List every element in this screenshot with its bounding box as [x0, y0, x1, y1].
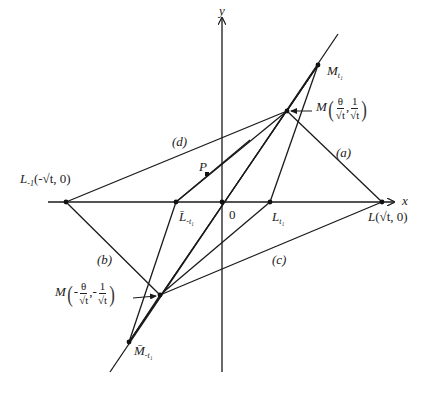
point-Lbar-neg-t1	[174, 200, 179, 205]
geometry-svg	[0, 0, 431, 393]
label-P: P	[199, 160, 207, 173]
label-L-t1: Lt₁	[272, 210, 284, 226]
line-d	[66, 111, 287, 202]
label-line-c: (c)	[272, 253, 286, 266]
point-M-neg	[158, 293, 163, 298]
point-M-t1	[316, 63, 321, 68]
label-Lbar-neg-t1: L̄-t₁	[179, 210, 194, 226]
point-Mbar-neg-t1	[127, 340, 132, 345]
x-axis-label: x	[402, 194, 408, 207]
point-origin	[220, 200, 225, 205]
label-M-pos: M(θ√t,1√t)	[316, 96, 368, 121]
label-line-b: (b)	[97, 253, 112, 266]
point-L	[380, 200, 385, 205]
point-M-pos	[285, 109, 290, 114]
y-axis-label: y	[219, 4, 225, 17]
label-L-neg1: L-1(-√t, 0)	[20, 172, 71, 188]
diagram-canvas: y x 0 L-1(-√t, 0) L(√t, 0) L̄-t₁ Lt₁ Mt₁…	[0, 0, 431, 393]
line-a	[287, 111, 382, 202]
label-M-neg: M(-θ√t,-1√t)	[55, 281, 116, 306]
label-L: L(√t, 0)	[368, 210, 408, 223]
origin-label: 0	[229, 208, 236, 221]
label-M-t1: Mt₁	[327, 64, 343, 80]
point-L-t1	[268, 200, 273, 205]
point-L-neg1	[64, 200, 69, 205]
label-line-a: (a)	[336, 146, 351, 159]
line-P-through	[176, 140, 250, 202]
label-line-d: (d)	[172, 135, 187, 148]
label-Mbar-neg-t1: M̄-t₁	[134, 344, 153, 360]
